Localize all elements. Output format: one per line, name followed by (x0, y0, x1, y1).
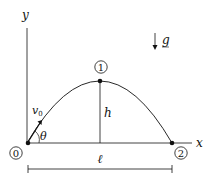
range-label: ℓ (98, 152, 103, 166)
projectile-diagram: y x g h v0 θ 0 1 2 ℓ (0, 0, 221, 181)
point-0-dot (26, 141, 31, 146)
gravity-arrow-icon (153, 33, 158, 50)
point-0-marker: 0 (10, 147, 22, 159)
angle-label: θ (40, 130, 47, 143)
y-axis-label: y (21, 8, 29, 22)
point-2-dot (170, 141, 175, 146)
gravity-label: g (162, 33, 170, 47)
trajectory-curve (27, 81, 172, 143)
svg-text:2: 2 (178, 148, 184, 159)
velocity-label: v0 (32, 104, 43, 118)
range-dimension-line (28, 165, 172, 173)
svg-text:1: 1 (98, 62, 104, 73)
point-2-marker: 2 (175, 147, 187, 159)
svg-text:0: 0 (13, 148, 19, 159)
angle-arc (35, 131, 39, 143)
x-axis-label: x (196, 136, 203, 150)
point-1-marker: 1 (95, 61, 107, 73)
point-1-dot (98, 79, 103, 84)
height-label: h (104, 106, 112, 120)
